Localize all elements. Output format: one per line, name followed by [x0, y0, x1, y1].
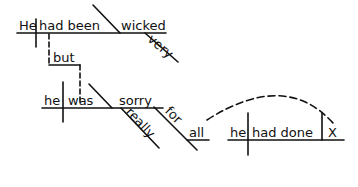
clause2-verb: was — [68, 94, 93, 107]
clause2-predicate-adjective: sorry — [119, 94, 152, 107]
relative-connector-curve — [207, 96, 333, 123]
clause2-subject: he — [44, 94, 60, 107]
relative-verb: had done — [252, 126, 313, 139]
clause1-subject: He — [19, 19, 37, 32]
clause1-predicate-adjective: wicked — [121, 19, 166, 32]
relative-object: X — [328, 126, 337, 139]
sentence-diagram: He had been wicked very but he was sorry… — [0, 0, 358, 187]
clause2-prepositional-object: all — [189, 126, 204, 139]
clause1-verb: had been — [39, 19, 100, 32]
conjunction-word: but — [53, 51, 75, 64]
relative-subject: he — [230, 126, 246, 139]
